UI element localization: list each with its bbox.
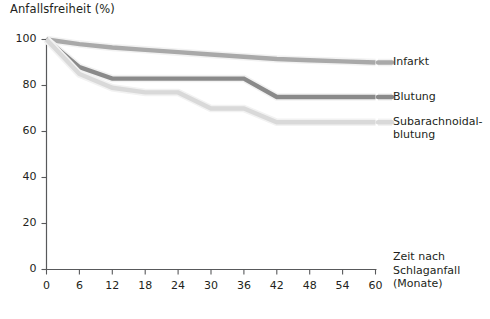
y-tick-label: 20 bbox=[11, 216, 37, 229]
y-tick-label: 0 bbox=[11, 262, 37, 275]
x-tick-label: 30 bbox=[201, 279, 221, 292]
x-axis-title-line-3: (Monate) bbox=[393, 277, 460, 291]
x-axis-title: Zeit nach Schlaganfall (Monate) bbox=[393, 250, 460, 291]
chart-legend-swatches bbox=[378, 63, 392, 123]
x-tick-label: 48 bbox=[300, 279, 320, 292]
y-tick-label: 80 bbox=[11, 78, 37, 91]
y-tick-label: 60 bbox=[11, 124, 37, 137]
x-tick-label: 36 bbox=[234, 279, 254, 292]
x-tick-label: 0 bbox=[37, 279, 57, 292]
chart-container: Anfallsfreiheit (%) 020406080100 0612182… bbox=[0, 0, 490, 319]
legend-item-2-label-line-1: Blutung bbox=[393, 90, 436, 104]
x-tick-label: 6 bbox=[69, 279, 89, 292]
legend-item-3-label-line-2: blutung bbox=[393, 128, 482, 142]
x-tick-label: 54 bbox=[333, 279, 353, 292]
x-tick-label: 60 bbox=[366, 279, 386, 292]
x-axis-title-line-1: Zeit nach bbox=[393, 250, 460, 264]
x-tick-label: 12 bbox=[102, 279, 122, 292]
x-axis-title-line-2: Schlaganfall bbox=[393, 264, 460, 278]
y-tick-label: 40 bbox=[11, 170, 37, 183]
legend-item-3: Subarachnoidal-blutung bbox=[393, 115, 482, 142]
legend-item-2: Blutung bbox=[393, 90, 436, 104]
y-tick-label: 100 bbox=[11, 32, 37, 45]
x-tick-label: 18 bbox=[135, 279, 155, 292]
legend-item-3-label-line-1: Subarachnoidal- bbox=[393, 115, 482, 129]
x-tick-label: 42 bbox=[267, 279, 287, 292]
x-tick-label: 24 bbox=[168, 279, 188, 292]
legend-item-1: Infarkt bbox=[393, 55, 429, 69]
legend-item-1-label-line-1: Infarkt bbox=[393, 55, 429, 69]
chart-series bbox=[47, 40, 376, 123]
